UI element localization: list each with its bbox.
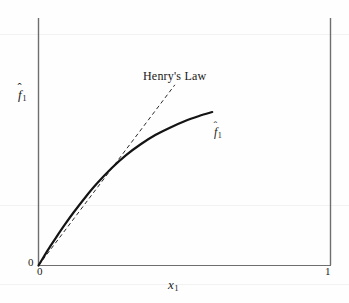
- x-axis-max-tick-label: 1: [325, 266, 331, 277]
- x-axis-label-base: x: [168, 277, 174, 292]
- curve-label-subscript: 1: [217, 131, 222, 140]
- y-axis-label-symbol: ˆf: [18, 88, 22, 101]
- fugacity-solid-curve: [39, 112, 213, 265]
- y-axis-label: ˆf1: [18, 88, 27, 103]
- curve-annotation-label: ˆf1: [214, 126, 222, 140]
- y-axis-origin-tick-label: 0: [28, 257, 34, 268]
- hat-accent-icon: ˆ: [214, 120, 218, 131]
- hat-accent-icon: ˆ: [18, 82, 22, 94]
- figure-container: ˆf1 x1 ˆf1 Henry's Law 0 0 1: [0, 0, 349, 303]
- curve-label-symbol: ˆf: [214, 126, 217, 138]
- x-axis-label-subscript: 1: [174, 283, 179, 293]
- y-axis-label-subscript: 1: [22, 93, 27, 103]
- henrys-law-dashed-line: [39, 85, 175, 266]
- henrys-law-annotation: Henry's Law: [143, 70, 206, 82]
- x-axis-origin-tick-label: 0: [37, 266, 43, 277]
- plot-area: [0, 0, 349, 303]
- x-axis-label: x1: [168, 278, 179, 293]
